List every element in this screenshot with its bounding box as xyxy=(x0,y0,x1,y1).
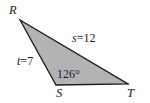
angle-label-at-s: 126° xyxy=(57,68,80,80)
vertex-label-r: R xyxy=(9,4,17,17)
vertex-label-s: S xyxy=(56,87,62,100)
side-label-s-value: 12 xyxy=(83,31,95,45)
triangle-figure: R S T s=12 t=7 126° xyxy=(0,0,150,103)
side-label-t-value: 7 xyxy=(27,54,33,68)
side-label-t: t=7 xyxy=(17,55,33,67)
side-label-s: s=12 xyxy=(72,32,95,44)
vertex-label-t: T xyxy=(127,87,134,100)
